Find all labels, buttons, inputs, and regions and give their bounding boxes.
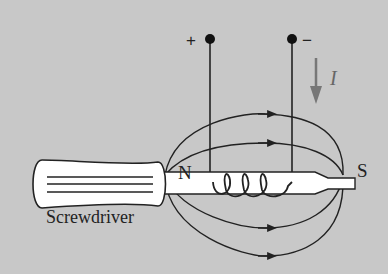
screwdriver-handle — [33, 160, 166, 208]
wires — [210, 40, 292, 182]
diagram-canvas: + − I N S Screwdriver — [0, 0, 388, 274]
negative-terminal-label: − — [302, 32, 312, 49]
south-pole-label: S — [357, 161, 368, 180]
positive-terminal — [205, 34, 215, 44]
screwdriver-label: Screwdriver — [46, 208, 134, 226]
current-label: I — [330, 68, 337, 88]
current-arrow — [310, 58, 322, 104]
positive-terminal-label: + — [186, 32, 196, 49]
north-pole-label: N — [178, 163, 192, 182]
negative-terminal — [287, 34, 297, 44]
